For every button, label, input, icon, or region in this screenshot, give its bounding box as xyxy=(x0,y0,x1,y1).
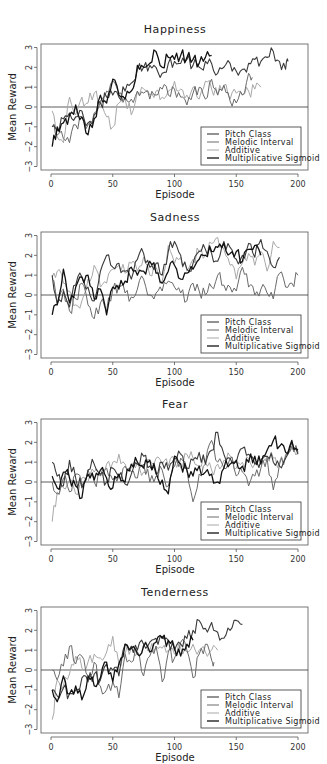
y-tick-label: 3 xyxy=(25,233,34,238)
x-tick-label: 100 xyxy=(167,368,182,377)
x-tick-label: 150 xyxy=(229,555,244,564)
x-axis-label: Episode xyxy=(155,377,194,388)
x-tick-label: 150 xyxy=(229,368,244,377)
y-tick-label: 2 xyxy=(25,253,34,258)
x-tick-label: 50 xyxy=(108,743,118,752)
x-tick-label: 100 xyxy=(167,555,182,564)
y-tick-label: 1 xyxy=(25,273,34,278)
y-axis-label: Mean Reward xyxy=(7,636,18,704)
x-axis-label: Episode xyxy=(155,564,194,575)
chart-panel-happiness: Happiness−3−2−10123050100150200Mean Rewa… xyxy=(7,23,320,200)
x-axis: 050100150200 xyxy=(48,174,305,189)
legend: Pitch ClassMelodic IntervalAdditiveMulti… xyxy=(201,315,320,353)
series-line-melodic-interval xyxy=(52,440,298,501)
x-tick-label: 200 xyxy=(290,743,305,752)
x-axis-label: Episode xyxy=(155,189,194,200)
chart-panel-fear: Fear−3−2−10123050100150200Mean RewardEpi… xyxy=(7,398,320,575)
x-tick-label: 100 xyxy=(167,180,182,189)
y-tick-label: −2 xyxy=(25,141,34,153)
series-line-multiplicative-sigmoid xyxy=(52,243,261,314)
y-tick-label: 0 xyxy=(25,479,34,484)
x-tick-label: 200 xyxy=(290,555,305,564)
y-tick-label: 3 xyxy=(25,45,34,50)
x-tick-label: 50 xyxy=(108,555,118,564)
figure-canvas: Happiness−3−2−10123050100150200Mean Rewa… xyxy=(0,0,327,764)
chart-panel-tenderness: Tenderness−3−2−10123050100150200Mean Rew… xyxy=(7,586,320,763)
y-tick-label: 0 xyxy=(25,667,34,672)
y-tick-label: −3 xyxy=(25,724,34,736)
y-tick-label: 0 xyxy=(25,104,34,109)
x-tick-label: 0 xyxy=(48,368,53,377)
legend: Pitch ClassMelodic IntervalAdditiveMulti… xyxy=(201,502,320,540)
x-tick-label: 100 xyxy=(167,743,182,752)
y-tick-label: −1 xyxy=(25,496,34,508)
y-tick-label: −1 xyxy=(25,309,34,321)
y-tick-label: 1 xyxy=(25,85,34,90)
panel-title: Happiness xyxy=(144,23,207,36)
y-tick-label: 3 xyxy=(25,608,34,613)
legend: Pitch ClassMelodic IntervalAdditiveMulti… xyxy=(201,690,320,728)
y-axis: −3−2−10123 xyxy=(25,233,37,360)
x-tick-label: 0 xyxy=(48,180,53,189)
y-tick-label: −1 xyxy=(25,121,34,133)
y-tick-label: −3 xyxy=(25,349,34,361)
y-axis-label: Mean Reward xyxy=(7,73,18,141)
y-tick-label: −1 xyxy=(25,684,34,696)
y-axis-label: Mean Reward xyxy=(7,448,18,516)
x-tick-label: 200 xyxy=(290,368,305,377)
figure: Happiness−3−2−10123050100150200Mean Rewa… xyxy=(0,0,327,764)
legend-entry-label: Multiplicative Sigmoid xyxy=(225,529,320,538)
y-tick-label: 2 xyxy=(25,628,34,633)
y-tick-label: −2 xyxy=(25,704,34,716)
y-axis: −3−2−10123 xyxy=(25,420,37,547)
y-tick-label: 1 xyxy=(25,648,34,653)
panel-title: Sadness xyxy=(150,211,200,224)
x-axis: 050100150200 xyxy=(48,549,305,564)
x-axis-label: Episode xyxy=(155,752,194,763)
legend: Pitch ClassMelodic IntervalAdditiveMulti… xyxy=(201,127,320,165)
y-tick-label: −3 xyxy=(25,161,34,173)
y-tick-label: 0 xyxy=(25,292,34,297)
y-tick-label: 2 xyxy=(25,65,34,70)
y-tick-label: 3 xyxy=(25,420,34,425)
chart-panel-sadness: Sadness−3−2−10123050100150200Mean Reward… xyxy=(7,211,320,388)
x-tick-label: 150 xyxy=(229,180,244,189)
x-tick-label: 50 xyxy=(108,368,118,377)
y-tick-label: −3 xyxy=(25,536,34,548)
y-tick-label: 2 xyxy=(25,440,34,445)
x-tick-label: 0 xyxy=(48,743,53,752)
y-axis: −3−2−10123 xyxy=(25,608,37,735)
x-tick-label: 150 xyxy=(229,743,244,752)
y-axis: −3−2−10123 xyxy=(25,45,37,172)
x-tick-label: 50 xyxy=(108,180,118,189)
series-lines xyxy=(52,238,298,319)
legend-entry-label: Multiplicative Sigmoid xyxy=(225,342,320,351)
panel-title: Tenderness xyxy=(140,586,209,599)
y-tick-label: −2 xyxy=(25,329,34,341)
x-axis: 050100150200 xyxy=(48,362,305,377)
x-tick-label: 200 xyxy=(290,180,305,189)
y-tick-label: 1 xyxy=(25,460,34,465)
x-tick-label: 0 xyxy=(48,555,53,564)
legend-entry-label: Multiplicative Sigmoid xyxy=(225,154,320,163)
series-line-multiplicative-sigmoid xyxy=(52,50,211,147)
y-tick-label: −2 xyxy=(25,516,34,528)
y-axis-label: Mean Reward xyxy=(7,261,18,329)
x-axis: 050100150200 xyxy=(48,737,305,752)
panel-title: Fear xyxy=(162,398,188,411)
legend-entry-label: Multiplicative Sigmoid xyxy=(225,717,320,726)
